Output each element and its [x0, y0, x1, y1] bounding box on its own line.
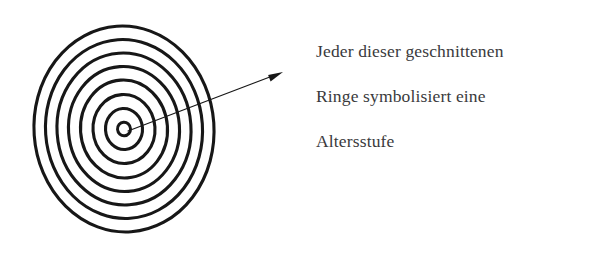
arrow-shaft [128, 76, 272, 131]
ring-8 [117, 122, 131, 136]
concentric-rings-group [27, 20, 221, 238]
ring-2 [39, 34, 208, 224]
ring-7 [104, 107, 144, 150]
pointer-arrow [128, 72, 283, 131]
caption: Jeder dieser geschnittenen Ringe symboli… [316, 18, 586, 175]
caption-line-3: Altersstufe [316, 130, 586, 152]
diagram-canvas: Jeder dieser geschnittenen Ringe symboli… [0, 0, 600, 253]
ring-5 [77, 77, 171, 181]
caption-line-1: Jeder dieser geschnittenen [316, 40, 586, 62]
ring-3 [52, 49, 196, 210]
ring-4 [64, 63, 183, 195]
caption-line-2: Ringe symbolisiert eine [316, 85, 586, 107]
arrow-head [268, 72, 283, 82]
ring-6 [91, 92, 158, 165]
